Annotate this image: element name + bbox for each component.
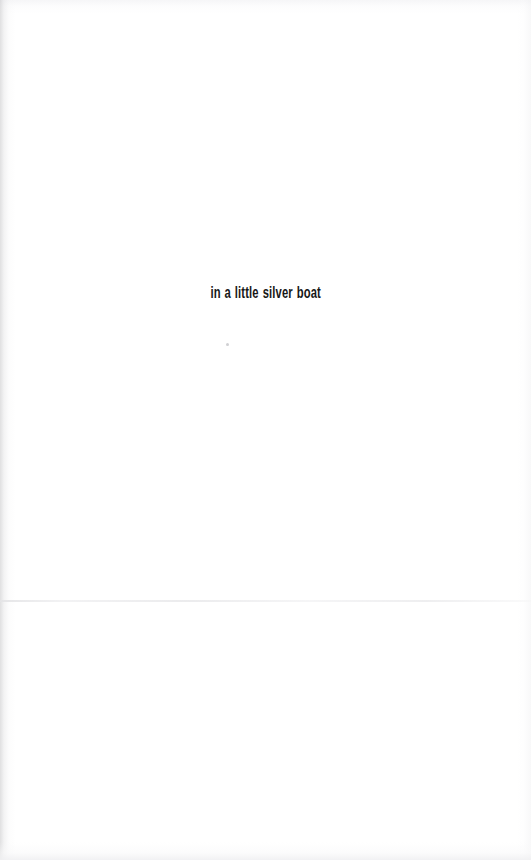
page-bottom-edge-shade <box>0 842 531 860</box>
page-left-edge-shadow <box>0 0 16 860</box>
poem-line: in a little silver boat <box>210 283 320 303</box>
page-fold-line <box>0 600 531 602</box>
scanned-page: in a little silver boat <box>0 0 531 860</box>
page-text-block: in a little silver boat <box>0 283 531 303</box>
page-right-edge-shadow <box>517 0 531 860</box>
page-top-edge-shade <box>0 0 531 14</box>
ink-speck <box>226 343 229 346</box>
